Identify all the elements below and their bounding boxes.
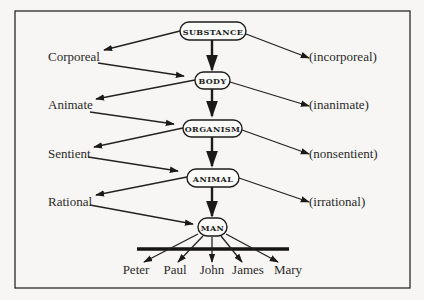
porphyry-tree-diagram: SUBSTANCE BODY ORGANISM ANIMAL MAN Corpo…	[0, 0, 424, 300]
node-substance: SUBSTANCE	[180, 22, 246, 40]
arrow-animal-rational	[96, 177, 187, 195]
individual-mary: Mary	[274, 262, 303, 277]
individual-paul: Paul	[163, 262, 187, 277]
arrow-organism-nonsentient	[242, 130, 309, 154]
label-animate: Animate	[48, 97, 93, 112]
arrow-substance-incorporeal	[246, 34, 309, 58]
arrow-sentient-animal	[88, 157, 178, 171]
label-sentient: Sentient	[48, 146, 91, 161]
arrow-rational-man	[90, 205, 193, 224]
node-man: MAN	[198, 218, 227, 236]
label-incorporeal: (incorporeal)	[309, 49, 377, 64]
node-animal-label: ANIMAL	[192, 174, 233, 184]
label-rational: Rational	[48, 194, 92, 209]
arrow-animate-organism	[90, 112, 174, 124]
arrow-substance-corporeal	[104, 31, 180, 50]
individual-james: James	[232, 262, 264, 277]
label-nonsentient: (nonsentient)	[309, 146, 378, 161]
label-corporeal: Corporeal	[48, 49, 100, 64]
node-body-label: BODY	[198, 76, 226, 86]
node-body: BODY	[195, 72, 230, 89]
node-animal: ANIMAL	[187, 169, 239, 187]
node-organism: ORGANISM	[183, 120, 242, 137]
arrow-organism-sentient	[94, 128, 183, 147]
left-branch-arrows	[94, 31, 195, 195]
node-substance-label: SUBSTANCE	[183, 27, 243, 37]
arrow-body-animate	[96, 80, 195, 99]
label-irrational: (irrational)	[309, 194, 365, 209]
right-branch-arrows	[230, 34, 309, 202]
individual-peter: Peter	[123, 262, 150, 277]
arrow-body-inanimate	[230, 82, 309, 106]
node-man-label: MAN	[201, 223, 225, 233]
individual-john: John	[200, 262, 225, 277]
arrow-corporeal-body	[98, 63, 184, 76]
arrow-animal-irrational	[239, 178, 309, 202]
differentia-to-node-arrows	[88, 63, 193, 224]
node-organism-label: ORGANISM	[185, 124, 241, 134]
label-inanimate: (inanimate)	[309, 97, 369, 112]
